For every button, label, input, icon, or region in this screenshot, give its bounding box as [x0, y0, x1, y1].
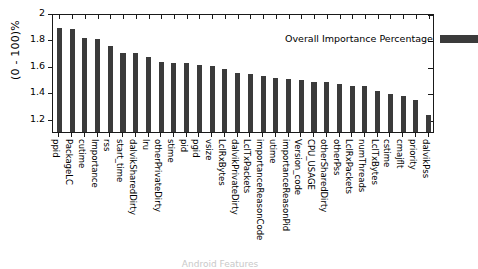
x-tick-label: ppid [50, 139, 62, 158]
x-tick-label: LclTxBytes [369, 139, 381, 185]
bar [146, 57, 151, 132]
x-tick-label: dalvikPrivateDirty [229, 139, 241, 215]
bar [286, 79, 291, 132]
x-tick-label: LclRxPackets [343, 139, 355, 194]
x-tick-mark [326, 133, 327, 137]
x-tick-mark [237, 133, 238, 137]
x-tick-mark [415, 133, 416, 137]
x-tick-mark [148, 133, 149, 137]
bar [133, 53, 138, 132]
bar [261, 76, 266, 132]
x-tick-label: dalvikPss [420, 139, 432, 178]
x-tick-label: priority [407, 139, 419, 170]
x-tick-mark [377, 133, 378, 137]
x-tick-label: LclRxBytes [216, 139, 228, 186]
x-tick-mark [364, 133, 365, 137]
x-tick-label: pgid [190, 139, 202, 158]
x-tick-mark [389, 133, 390, 137]
y-tick-label: 1.6 [30, 60, 45, 71]
bar [210, 66, 215, 132]
x-tick-mark [122, 133, 123, 137]
x-tick-label: vsize [203, 139, 215, 161]
chart-legend: Overall Importance Percentage [285, 31, 478, 46]
x-tick-label: stime [165, 139, 177, 163]
bar [324, 82, 329, 132]
bar [222, 69, 227, 132]
bar [362, 86, 367, 132]
legend-swatch-icon [440, 35, 478, 43]
bar [299, 80, 304, 132]
bar [159, 62, 164, 132]
x-tick-label: cmajflt [394, 139, 406, 168]
x-tick-label: Importance [89, 139, 101, 188]
bar [70, 29, 75, 132]
x-tick-mark [97, 133, 98, 137]
x-tick-label: rss [101, 139, 113, 151]
bar [426, 115, 431, 132]
bar [235, 73, 240, 133]
x-tick-mark [351, 133, 352, 137]
x-tick-mark [313, 133, 314, 137]
y-tick-label: 1.8 [30, 33, 45, 44]
y-tick-label: 1.4 [30, 86, 45, 97]
bar [388, 94, 393, 132]
x-tick-mark [224, 133, 225, 137]
x-tick-label: importanceReasonCode [254, 139, 266, 240]
bar [248, 74, 253, 132]
bar [337, 84, 342, 132]
x-tick-label: LclTxPackets [241, 139, 253, 193]
x-tick-label: otherSharedDirty [318, 139, 330, 212]
bar [311, 82, 316, 132]
y-tick-label: 1.2 [30, 113, 45, 124]
x-tick-mark [58, 133, 59, 137]
x-tick-label: numThreads [356, 139, 368, 192]
bar [82, 38, 87, 132]
x-tick-mark [198, 133, 199, 137]
bar [401, 96, 406, 132]
bar [413, 100, 418, 132]
x-tick-mark [160, 133, 161, 137]
x-tick-mark [288, 133, 289, 137]
bar [120, 53, 125, 132]
x-tick-mark [275, 133, 276, 137]
x-tick-label: CPU_USAGE [305, 139, 317, 190]
x-tick-mark [173, 133, 174, 137]
x-tick-mark [186, 133, 187, 137]
bar [184, 63, 189, 132]
bar [350, 86, 355, 132]
y-tick-label: 2 [39, 7, 45, 18]
legend-label: Overall Importance Percentage [285, 33, 433, 44]
x-tick-mark [428, 133, 429, 137]
bar [108, 46, 113, 132]
x-tick-label: importanceReasonPid [280, 139, 292, 231]
plot-area: Overall Importance Percentage [52, 14, 434, 133]
x-tick-mark [249, 133, 250, 137]
x-tick-mark [262, 133, 263, 137]
bar [273, 78, 278, 132]
x-tick-mark [135, 133, 136, 137]
bar [171, 63, 176, 132]
x-tick-mark [211, 133, 212, 137]
bar [375, 91, 380, 132]
x-tick-label: pid [178, 139, 190, 152]
x-tick-label: otherPrivateDirty [152, 139, 164, 212]
x-tick-label: cutime [76, 139, 88, 168]
bar [197, 65, 202, 132]
x-tick-label: PackageLC [63, 139, 75, 185]
x-tick-label: cstime [381, 139, 393, 167]
x-tick-mark [71, 133, 72, 137]
x-tick-mark [84, 133, 85, 137]
x-tick-label: otherPss [331, 139, 343, 175]
x-tick-mark [300, 133, 301, 137]
x-tick-mark [109, 133, 110, 137]
x-tick-label: dalvikSharedDirty [127, 139, 139, 215]
x-tick-label: utime [267, 139, 279, 164]
bar [95, 39, 100, 132]
x-tick-label: lru [140, 139, 152, 150]
bar [57, 28, 62, 132]
x-tick-mark [339, 133, 340, 137]
x-tick-label: start_time [114, 139, 126, 182]
x-axis-title: Android Features [0, 259, 440, 269]
x-tick-mark [402, 133, 403, 137]
